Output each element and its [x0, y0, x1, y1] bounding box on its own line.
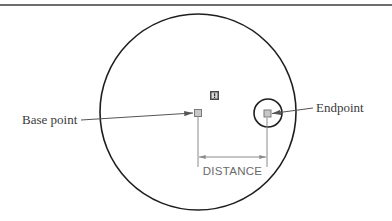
distance-label: DISTANCE: [203, 165, 263, 177]
base-point-label: Base point: [22, 112, 78, 127]
endpoint-label: Endpoint: [316, 100, 364, 115]
endpoint-leader: [272, 108, 313, 114]
diagram-canvas: DISTANCE Base point Endpoint: [0, 0, 392, 221]
base-point-leader: [81, 113, 193, 120]
snap-tooltip-icon: [210, 91, 219, 100]
base-point-marker: [195, 110, 202, 117]
endpoint-marker: [264, 110, 271, 117]
